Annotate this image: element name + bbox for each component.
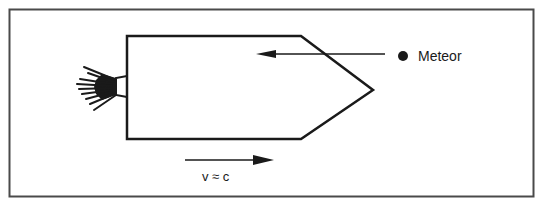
diagram-canvas: Meteor v ≈ c	[0, 0, 545, 204]
figure-frame	[10, 10, 534, 197]
spaceship-hull	[127, 36, 373, 139]
velocity-label: v ≈ c	[202, 169, 230, 184]
rocket-exhaust-flame	[77, 67, 116, 110]
meteor-dot	[398, 51, 408, 61]
meteor-label: Meteor	[418, 48, 462, 64]
velocity-arrow	[185, 155, 274, 165]
rocket-nozzle	[116, 76, 127, 97]
